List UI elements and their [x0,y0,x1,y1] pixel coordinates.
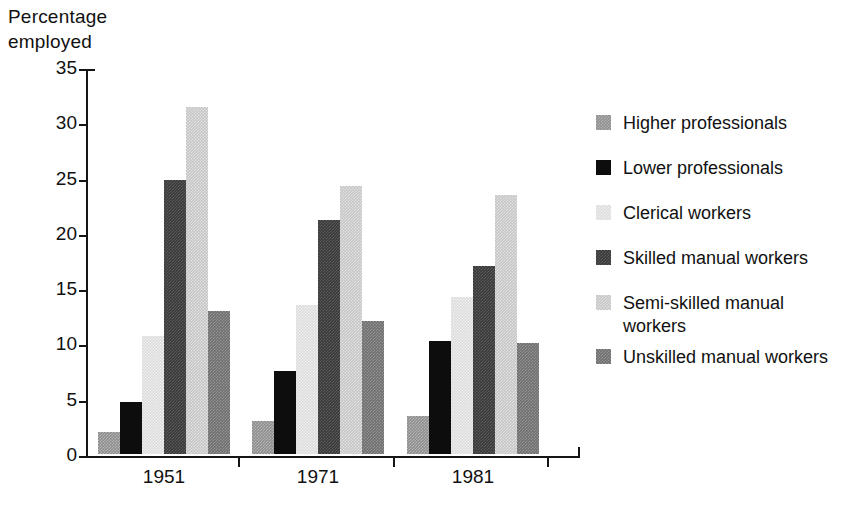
x-axis-group-separator-0 [238,456,240,467]
y-tick-mark [79,401,86,403]
y-tick-label: 30 [56,113,77,133]
bar-1981-lower [429,341,451,454]
legend-swatch-icon-clerical [596,205,611,220]
y-tick-mark [79,235,86,237]
y-tick-label: 35 [56,58,77,78]
legend-label: Skilled manual workers [623,247,808,270]
plot-area: 05101520253035 [86,69,580,456]
legend-label: Unskilled manual workers [623,346,828,369]
y-tick-mark [79,456,86,458]
legend-swatch-icon-semiskilled [596,295,611,310]
x-axis-label-1981: 1981 [428,466,518,488]
y-tick-mark [79,290,86,292]
bar-1981-clerical [451,297,473,454]
chart-legend: Higher professionalsLower professionalsC… [596,112,858,391]
legend-item-unskilled[interactable]: Unskilled manual workers [596,346,858,369]
y-tick-label: 15 [56,279,77,299]
x-axis-line [86,456,580,458]
y-tick-label: 0 [66,445,77,465]
legend-swatch-icon-higher [596,115,611,130]
legend-label: Clerical workers [623,202,751,225]
bar-1971-semiskilled [340,186,362,454]
x-axis-group-separator-1 [393,456,395,467]
bar-1951-semiskilled [186,107,208,454]
y-tick-label: 5 [66,390,77,410]
bar-1951-clerical [142,336,164,454]
x-axis-right-cap [578,447,580,458]
bar-1981-skilled [473,266,495,454]
legend-item-clerical[interactable]: Clerical workers [596,202,858,225]
y-tick-mark [79,345,86,347]
y-axis-line [86,69,88,457]
bar-1951-skilled [164,180,186,454]
bar-1971-unskilled [362,321,384,454]
x-axis-label-1951: 1951 [119,466,209,488]
legend-item-semiskilled[interactable]: Semi-skilled manualworkers [596,292,858,338]
legend-swatch-icon-lower [596,160,611,175]
y-tick-mark [79,124,86,126]
y-tick-label: 10 [56,334,77,354]
y-tick-mark [79,69,86,71]
x-axis-group-separator-2 [547,456,549,467]
legend-item-skilled[interactable]: Skilled manual workers [596,247,858,270]
bar-1971-lower [274,371,296,454]
y-axis-title: Percentage employed [8,4,107,54]
bar-1981-semiskilled [495,195,517,454]
legend-swatch-icon-skilled [596,250,611,265]
bar-1971-skilled [318,220,340,454]
legend-label: Lower professionals [623,157,783,180]
bar-1981-unskilled [517,343,539,454]
y-axis-top-cap [86,69,95,71]
bar-1951-lower [120,402,142,454]
x-axis-label-1971: 1971 [273,466,363,488]
y-tick-mark [79,180,86,182]
bar-1971-clerical [296,305,318,454]
bar-1951-higher [98,432,120,454]
y-tick-label: 25 [56,169,77,189]
legend-label: Semi-skilled manualworkers [623,292,784,338]
legend-item-lower[interactable]: Lower professionals [596,157,858,180]
y-tick-label: 20 [56,224,77,244]
bar-1971-higher [252,421,274,454]
bar-1951-unskilled [208,311,230,454]
chart-page: Percentage employed 05101520253035 19511… [0,0,863,505]
bar-1981-higher [407,416,429,454]
legend-swatch-icon-unskilled [596,349,611,364]
legend-item-higher[interactable]: Higher professionals [596,112,858,135]
legend-label: Higher professionals [623,112,787,135]
